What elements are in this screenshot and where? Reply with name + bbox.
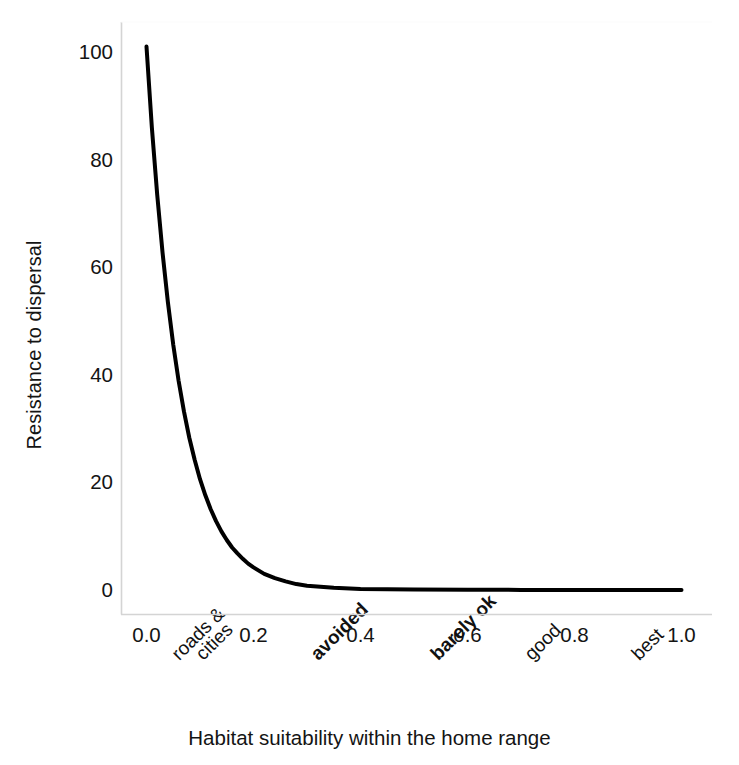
plot-area [0,0,739,765]
resistance-decay-curve [147,47,682,590]
x-axis-title: Habitat suitability within the home rang… [0,726,739,750]
chart-figure: Resistance to dispersal 020406080100 0.0… [0,0,739,765]
